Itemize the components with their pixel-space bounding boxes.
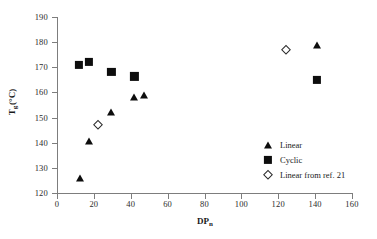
y-axis-tick-label: 140	[18, 139, 48, 148]
x-axis-title-base: DP	[197, 216, 209, 226]
x-axis-tick-label: 120	[263, 200, 293, 209]
y-axis-tick	[52, 42, 57, 43]
x-axis-title: DPn	[57, 216, 353, 228]
legend-label: Cyclic	[280, 154, 302, 166]
legend-item: Linear from ref. 21	[268, 168, 373, 183]
x-axis-tick-label: 100	[226, 200, 256, 209]
legend-label: Linear	[280, 139, 302, 151]
y-axis-tick-label: 190	[18, 13, 48, 22]
y-axis-tick-label: 160	[18, 88, 48, 97]
scatter-chart-figure: 120130140150160170180190 020406080100120…	[0, 0, 377, 239]
triangle-marker-icon	[130, 94, 138, 101]
square-marker-icon	[264, 156, 272, 164]
x-axis-tick-label: 20	[79, 200, 109, 209]
x-axis-tick-label: 160	[337, 200, 367, 209]
triangle-marker-icon	[85, 137, 93, 144]
x-axis-tick-label: 60	[153, 200, 183, 209]
y-axis-title-base: T	[7, 109, 17, 115]
y-axis-tick	[52, 143, 57, 144]
triangle-marker-icon	[107, 109, 115, 116]
x-axis-tick-label: 80	[190, 200, 220, 209]
square-marker-icon	[85, 58, 93, 66]
legend-item: Cyclic	[268, 153, 373, 168]
square-marker-icon	[313, 76, 321, 84]
y-axis-tick	[52, 17, 57, 18]
y-axis-title-subscript: g	[11, 106, 19, 110]
triangle-marker-icon	[313, 41, 321, 48]
legend-label: Linear from ref. 21	[280, 169, 345, 181]
x-axis-title-subscript: n	[209, 220, 213, 228]
triangle-marker-icon	[140, 91, 148, 98]
y-axis-tick-label: 120	[18, 189, 48, 198]
y-axis-tick-label: 130	[18, 164, 48, 173]
y-axis-tick-label: 170	[18, 63, 48, 72]
legend-item: Linear	[268, 138, 373, 153]
triangle-marker-icon	[76, 174, 84, 181]
x-axis-tick-label: 0	[42, 200, 72, 209]
x-axis-tick-label: 40	[116, 200, 146, 209]
y-axis-title: Tg (°C)	[7, 67, 19, 137]
y-axis-tick-label: 150	[18, 114, 48, 123]
y-axis-title-unit: (°C)	[7, 89, 17, 105]
x-axis-tick-label: 140	[300, 200, 330, 209]
y-axis-tick	[52, 118, 57, 119]
square-marker-icon	[75, 60, 83, 68]
square-marker-icon	[130, 72, 138, 80]
y-axis-tick-label: 180	[18, 38, 48, 47]
square-marker-icon	[107, 67, 115, 75]
y-axis-line	[57, 17, 58, 194]
triangle-marker-icon	[264, 142, 272, 149]
y-axis-tick	[52, 168, 57, 169]
y-axis-tick	[52, 92, 57, 93]
chart-legend: LinearCyclicLinear from ref. 21	[268, 138, 373, 183]
y-axis-tick	[52, 67, 57, 68]
